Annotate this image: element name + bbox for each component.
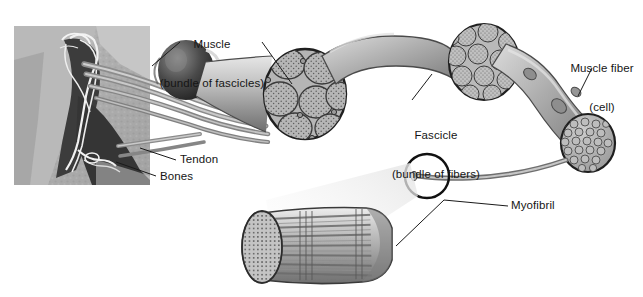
label-muscle-fiber-line2: (cell) bbox=[562, 101, 642, 114]
myofibril-cylinder bbox=[242, 208, 392, 284]
label-muscle-fiber-line1: Muscle fiber bbox=[562, 62, 642, 75]
fascicle-tube bbox=[322, 10, 524, 112]
label-fascicle-line2: (bundle of fibers) bbox=[378, 168, 494, 181]
label-muscle-fiber: Muscle fiber (cell) bbox=[562, 36, 642, 140]
label-myofibril: Myofibril bbox=[511, 199, 555, 212]
label-muscle: Muscle (bundle of fascicles) bbox=[150, 12, 274, 116]
label-muscle-line1: Muscle bbox=[150, 38, 274, 51]
diagram-artwork bbox=[0, 0, 643, 297]
label-bones: Bones bbox=[160, 170, 193, 183]
label-muscle-line2: (bundle of fascicles) bbox=[150, 77, 274, 90]
figure-canvas: Muscle (bundle of fascicles) Fascicle (b… bbox=[0, 0, 643, 297]
label-fascicle: Fascicle (bundle of fibers) bbox=[378, 103, 494, 207]
label-tendon: Tendon bbox=[180, 153, 218, 166]
label-fascicle-line1: Fascicle bbox=[378, 129, 494, 142]
leader-fascicle bbox=[412, 74, 432, 100]
